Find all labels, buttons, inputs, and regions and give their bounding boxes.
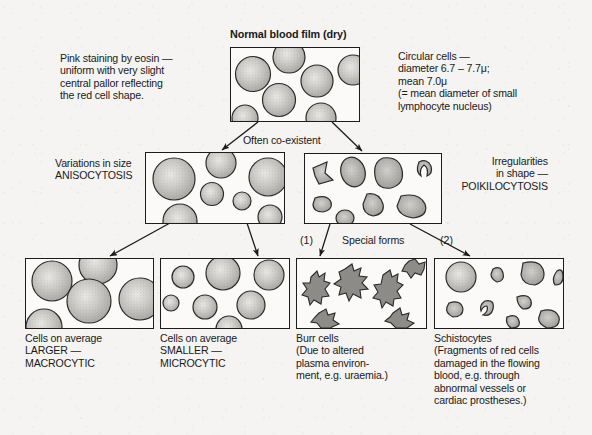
poikilocytosis-label: Irregularities in shape — POIKILOCYTOSIS — [443, 155, 548, 192]
burr-cells-caption: Burr cells (Due to altered plasma enviro… — [296, 332, 431, 382]
microcytic-panel — [160, 258, 290, 329]
anisocytosis-label: Variations in size ANISOCYTOSIS — [55, 157, 145, 182]
macrocytic-caption: Cells on average LARGER — MACROCYTIC — [25, 332, 155, 369]
schistocytes-panel — [434, 258, 564, 329]
poikilocytosis-panel — [304, 153, 442, 224]
special-forms-label: Special forms — [342, 234, 404, 246]
anisocytosis-panel — [145, 152, 285, 224]
circular-cells-note: Circular cells — diameter 6.7 – 7.7μ; me… — [398, 50, 588, 112]
microcytic-caption: Cells on average SMALLER — MICROCYTIC — [160, 332, 290, 369]
burr-cells-panel — [296, 258, 427, 329]
macrocytic-panel — [25, 258, 154, 329]
normal-blood-film-panel — [230, 47, 360, 122]
special-forms-marker-two: (2) — [440, 234, 453, 246]
figure-title: Normal blood film (dry) — [230, 28, 346, 40]
special-forms-marker-one: (1) — [300, 234, 313, 246]
schistocytes-caption: Schistocytes (Fragments of red cells dam… — [434, 332, 589, 406]
often-co-existent-label: Often co-existent — [243, 134, 321, 146]
eosin-staining-note: Pink staining by eosin — uniform with ve… — [60, 52, 235, 102]
